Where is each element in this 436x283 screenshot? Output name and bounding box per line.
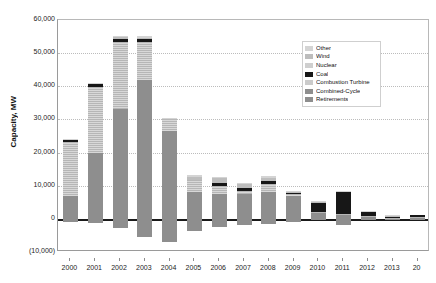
bar-group [410, 20, 425, 250]
bar-segment [261, 192, 276, 219]
bar-segment [88, 84, 103, 87]
bar-segment-retirements [410, 219, 425, 220]
y-axis-title: Capacity, MW [9, 96, 18, 147]
bar-segment [113, 37, 128, 39]
x-axis-tick-label: 2009 [282, 263, 304, 272]
bar-segment-retirements [137, 219, 152, 238]
bar-group [237, 20, 252, 250]
x-axis-tick-mark [243, 258, 244, 261]
bar-segment [63, 139, 78, 140]
legend-swatch-icon [305, 97, 313, 102]
x-axis-tick-mark [367, 258, 368, 261]
x-axis-tick-label: 2001 [83, 263, 105, 272]
bar-segment [261, 178, 276, 181]
y-axis-tick-label: 10,000 [7, 181, 55, 189]
bar-segment [261, 184, 276, 191]
bar-segment [137, 38, 152, 40]
bar-group [162, 20, 177, 250]
bar-segment [286, 193, 301, 194]
bar-group [212, 20, 227, 250]
bar-group [113, 20, 128, 250]
bar-segment [162, 118, 177, 119]
bar-segment [286, 196, 301, 219]
bar-segment [212, 186, 227, 194]
x-axis-tick-mark [119, 258, 120, 261]
legend-item: Nuclear [305, 61, 378, 70]
x-axis-tick-mark [317, 258, 318, 261]
bar-segment [88, 153, 103, 219]
bar-group [261, 20, 276, 250]
x-axis-tick-label: 2011 [331, 263, 353, 272]
bar-segment [137, 80, 152, 219]
bar-segment [113, 39, 128, 42]
x-axis-tick-label: 2004 [158, 263, 180, 272]
bar-group [88, 20, 103, 250]
bar-segment [212, 178, 227, 182]
chart-legend: OtherWindNuclearCoalCombustion TurbineCo… [302, 41, 381, 107]
bar-segment [212, 183, 227, 186]
legend-item-label: Retirements [316, 96, 348, 103]
bar-segment [286, 192, 301, 193]
x-axis-tick-mark [69, 258, 70, 261]
bar-group [187, 20, 202, 250]
bar-segment [286, 191, 301, 192]
bar-segment [385, 215, 400, 216]
x-axis-tick-label: 2007 [232, 263, 254, 272]
x-axis-tick-label: 2013 [381, 263, 403, 272]
x-axis-tick-label: 20 [406, 263, 428, 272]
legend-item: Other [305, 44, 378, 53]
bar-segment [237, 188, 252, 191]
y-axis-tick-label: (10,000) [7, 247, 55, 255]
bar-segment [361, 211, 376, 212]
bar-segment [88, 87, 103, 153]
bar-segment [137, 39, 152, 42]
legend-item-label: Combustion Turbine [316, 79, 370, 86]
bar-segment [162, 131, 177, 219]
bar-segment-retirements [311, 219, 326, 220]
bar-segment [261, 176, 276, 177]
bar-segment [361, 216, 376, 217]
bar-segment [336, 191, 351, 192]
bar-segment-retirements [88, 219, 103, 224]
legend-swatch-icon [305, 89, 313, 94]
bar-segment-retirements [162, 219, 177, 242]
bar-segment [311, 203, 326, 212]
bar-segment [237, 191, 252, 195]
bar-segment [311, 201, 326, 202]
bar-segment [410, 215, 425, 217]
x-axis-tick-label: 2012 [356, 263, 378, 272]
y-axis-tick-label: 60,000 [7, 15, 55, 23]
bar-segment [311, 212, 326, 213]
bar-segment-retirements [336, 219, 351, 225]
bar-segment [63, 142, 78, 196]
bar-segment-retirements [63, 219, 78, 223]
bar-segment [336, 191, 351, 214]
bar-segment-retirements [187, 219, 202, 232]
bar-segment [261, 181, 276, 184]
x-axis-tick-mark [144, 258, 145, 261]
bar-segment [187, 177, 202, 180]
y-axis-tick-label: 0 [7, 214, 55, 222]
bar-group [385, 20, 400, 250]
bar-segment-retirements [113, 219, 128, 229]
y-axis-tick-label: 50,000 [7, 48, 55, 56]
legend-item: Coal [305, 70, 378, 79]
bar-segment [63, 196, 78, 219]
bar-segment-retirements [212, 219, 227, 227]
bar-segment [410, 217, 425, 218]
bar-segment [187, 192, 202, 219]
bar-segment-retirements [237, 219, 252, 225]
bar-group [63, 20, 78, 250]
x-axis-tick-label: 2005 [182, 263, 204, 272]
legend-item-label: Nuclear [316, 62, 337, 69]
x-axis-tick-mark [193, 258, 194, 261]
x-axis-tick-label: 2006 [207, 263, 229, 272]
bar-segment-retirements [261, 219, 276, 224]
bar-segment [137, 36, 152, 38]
bar-segment-retirements [361, 219, 376, 220]
legend-item-label: Other [316, 45, 331, 52]
bar-segment [113, 36, 128, 38]
x-axis-tick-label: 2003 [133, 263, 155, 272]
legend-swatch-icon [305, 72, 313, 77]
bar-segment [212, 177, 227, 178]
